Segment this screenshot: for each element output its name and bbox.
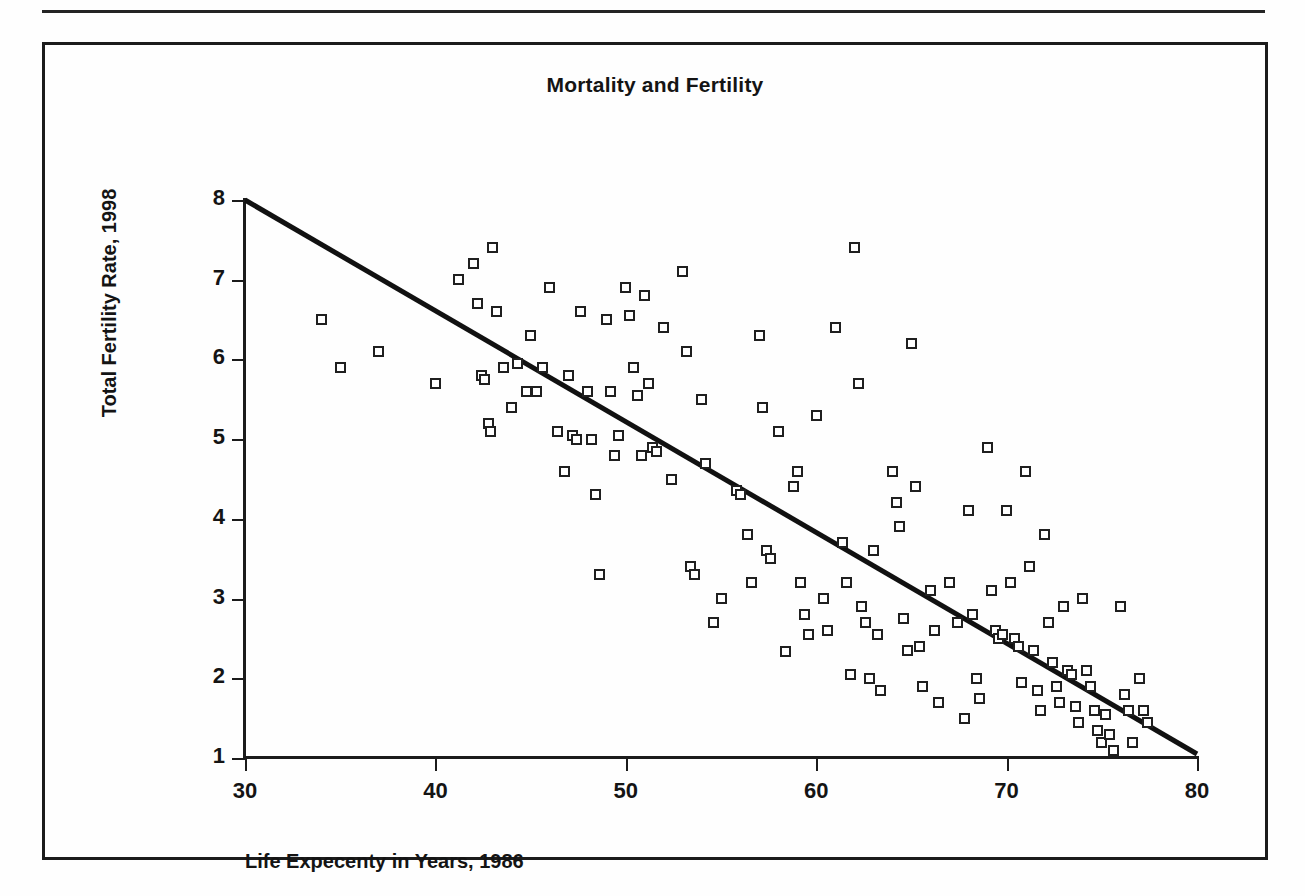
- y-tick-label: 2: [187, 665, 225, 687]
- scatter-point: [373, 346, 384, 357]
- scatter-point: [506, 402, 517, 413]
- y-tick-mark: [232, 200, 245, 202]
- x-tick-label: 40: [405, 780, 465, 802]
- y-tick-label: 5: [187, 426, 225, 448]
- scatter-point: [575, 306, 586, 317]
- y-tick-label: 6: [187, 346, 225, 368]
- scatter-point: [898, 613, 909, 624]
- scatter-point: [1085, 681, 1096, 692]
- top-horizontal-rule: [42, 10, 1265, 13]
- x-tick-label: 70: [977, 780, 1037, 802]
- scatter-point: [1020, 466, 1031, 477]
- y-tick-label: 7: [187, 267, 225, 289]
- scatter-point: [335, 362, 346, 373]
- y-tick-mark: [232, 439, 245, 441]
- y-axis-label: Total Fertility Rate, 1998: [98, 153, 121, 453]
- scatter-point: [571, 434, 582, 445]
- scatter-point: [830, 322, 841, 333]
- scatter-point: [1104, 729, 1115, 740]
- scatter-point: [856, 601, 867, 612]
- y-tick-mark: [232, 359, 245, 361]
- scatter-point: [959, 713, 970, 724]
- scatter-point: [666, 474, 677, 485]
- scatter-point: [818, 593, 829, 604]
- scatter-point: [963, 505, 974, 516]
- scatter-point: [799, 609, 810, 620]
- scatter-point: [1077, 593, 1088, 604]
- scatter-point: [944, 577, 955, 588]
- y-tick-label: 3: [187, 586, 225, 608]
- x-axis-label: Life Expecenty in Years, 1986: [245, 850, 524, 873]
- scatter-point: [1054, 697, 1065, 708]
- chart-title: Mortality and Fertility: [45, 73, 1265, 97]
- scatter-point: [479, 374, 490, 385]
- scatter-point: [316, 314, 327, 325]
- scatter-point: [853, 378, 864, 389]
- scatter-point: [1024, 561, 1035, 572]
- scatter-point: [677, 266, 688, 277]
- scatter-point: [468, 258, 479, 269]
- chart-frame: Mortality and Fertility 1234567830405060…: [42, 42, 1268, 860]
- y-tick-mark: [232, 280, 245, 282]
- scatter-point: [453, 274, 464, 285]
- scatter-point: [605, 386, 616, 397]
- y-tick-mark: [232, 758, 245, 760]
- scatter-point: [1070, 701, 1081, 712]
- figure-page: Mortality and Fertility 1234567830405060…: [0, 0, 1305, 896]
- scatter-point: [1127, 737, 1138, 748]
- scatter-point: [986, 585, 997, 596]
- scatter-point: [803, 629, 814, 640]
- scatter-point: [531, 386, 542, 397]
- scatter-point: [974, 693, 985, 704]
- scatter-point: [792, 466, 803, 477]
- scatter-point: [1142, 717, 1153, 728]
- x-tick-label: 50: [596, 780, 656, 802]
- scatter-point: [872, 629, 883, 640]
- scatter-point: [914, 641, 925, 652]
- scatter-point: [472, 298, 483, 309]
- scatter-point: [754, 330, 765, 341]
- scatter-point: [1001, 505, 1012, 516]
- scatter-point: [982, 442, 993, 453]
- scatter-point: [887, 466, 898, 477]
- scatter-point: [1058, 601, 1069, 612]
- scatter-point: [582, 386, 593, 397]
- y-tick-mark: [232, 599, 245, 601]
- scatter-point: [811, 410, 822, 421]
- scatter-point: [1073, 717, 1084, 728]
- scatter-point: [735, 489, 746, 500]
- scatter-point: [1138, 705, 1149, 716]
- x-tick-mark: [1007, 758, 1009, 771]
- scatter-point: [891, 497, 902, 508]
- scatter-point: [788, 481, 799, 492]
- scatter-point: [1092, 725, 1103, 736]
- scatter-point: [746, 577, 757, 588]
- scatter-point: [933, 697, 944, 708]
- scatter-point: [1035, 705, 1046, 716]
- scatter-point: [512, 358, 523, 369]
- scatter-point: [997, 629, 1008, 640]
- scatter-point: [742, 529, 753, 540]
- scatter-point: [1119, 689, 1130, 700]
- scatter-point: [601, 314, 612, 325]
- scatter-point: [620, 282, 631, 293]
- scatter-point: [902, 645, 913, 656]
- y-tick-mark: [232, 678, 245, 680]
- plot-area: 12345678304050607080: [245, 200, 1197, 758]
- scatter-point: [700, 458, 711, 469]
- scatter-point: [696, 394, 707, 405]
- scatter-point: [1028, 645, 1039, 656]
- trend-line: [245, 200, 1197, 758]
- scatter-point: [681, 346, 692, 357]
- scatter-point: [624, 310, 635, 321]
- scatter-point: [845, 669, 856, 680]
- scatter-point: [1005, 577, 1016, 588]
- scatter-point: [841, 577, 852, 588]
- scatter-point: [537, 362, 548, 373]
- scatter-point: [837, 537, 848, 548]
- scatter-point: [487, 242, 498, 253]
- scatter-point: [757, 402, 768, 413]
- scatter-point: [1043, 617, 1054, 628]
- scatter-point: [563, 370, 574, 381]
- scatter-point: [643, 378, 654, 389]
